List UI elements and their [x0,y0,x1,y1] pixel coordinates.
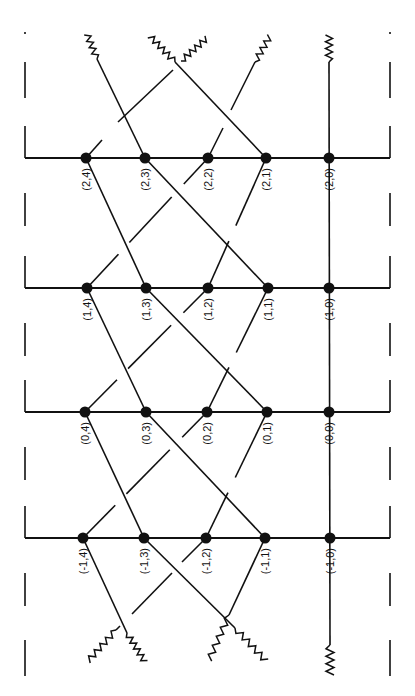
wavy-terminal [326,645,334,675]
node-dot [81,153,92,164]
wavy-terminal [84,35,98,59]
top-edge [97,59,145,158]
bottom-edge [116,626,120,630]
edge-1-to-2 [206,493,228,538]
wavy-terminals [84,35,334,676]
wavy-terminal [148,37,175,63]
top-edge [175,62,266,158]
edge-1-to-2 [208,241,229,288]
wavy-terminal [126,633,147,661]
node-label: (2,3) [139,168,151,191]
node-dot [203,153,214,164]
node-dot [260,533,271,544]
wavy-terminal [326,35,333,62]
wavy-terminal [89,630,116,663]
node-label: (1,3) [140,298,152,321]
node-dot [141,283,152,294]
node-label: (2,1) [260,168,272,191]
node-dot [324,283,335,294]
node-dot [140,153,151,164]
wavy-terminal [255,35,271,63]
node-label: (0,4) [79,422,91,445]
top-edge [231,62,255,110]
wavy-terminal [235,628,268,660]
edge-4-to-3 [87,288,146,412]
node-dot [80,407,91,418]
node-label: (1,1) [262,298,274,321]
node-dot [324,153,335,164]
node-dot [201,533,212,544]
node-label: (2,2) [202,168,214,191]
edge-2-to-4 [85,380,117,412]
node-label: (-1,3) [138,548,150,574]
node-dot [78,533,89,544]
node-label: (-1,2) [200,548,212,574]
node-dot [203,283,214,294]
edge-2-to-4 [129,197,171,243]
edge-1-to-2 [207,367,229,412]
bottom-edge [132,573,172,614]
node-label: (2,0) [323,168,335,191]
node-dot [82,283,93,294]
edge-2-to-4 [126,450,169,494]
node-label: (-1,4) [77,548,89,574]
node-label: (0,0) [323,422,335,445]
node-label: (1,2) [202,298,214,321]
node-label: (-1,0) [324,548,336,574]
node-dot [263,283,274,294]
node-label: (2,4) [80,168,92,191]
node-label: (0,1) [261,422,273,445]
node-dot [261,153,272,164]
node-dot [325,533,336,544]
horizontal-rows [25,158,390,538]
wavy-terminal [181,36,206,61]
lattice-diagram: (2,4)(2,3)(2,2)(2,1)(2,0)(1,4)(1,3)(1,2)… [0,0,415,696]
edge-2-to-4 [87,254,118,288]
dashed-boundaries [25,32,390,676]
node-dot [324,407,335,418]
bottom-edge [144,538,235,628]
node-dot [202,407,213,418]
node-dot [139,533,150,544]
node-dot [262,407,273,418]
edge-2-to-4 [128,325,171,368]
node-label: (1,4) [81,298,93,321]
node-dot [141,407,152,418]
node-label: (-1,1) [259,548,271,574]
node-labels: (2,4)(2,3)(2,2)(2,1)(2,0)(1,4)(1,3)(1,2)… [77,168,336,574]
edge-4-to-3 [85,412,144,538]
edge-4-to-3 [86,158,146,288]
node-label: (0,2) [201,422,213,445]
node-label: (1,0) [323,298,335,321]
edge-2-to-4 [83,505,115,538]
node-label: (0,3) [140,422,152,445]
top-edge [118,70,173,122]
bottom-edge [83,538,127,633]
wavy-terminal [208,615,229,661]
